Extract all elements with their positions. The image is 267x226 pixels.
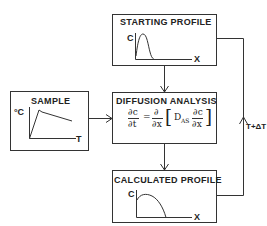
- starting-profile-x-axis-label: X: [194, 54, 200, 64]
- sample-y-axis-label: °C: [14, 107, 24, 117]
- eq-rhs-numerator: ∂c: [193, 107, 203, 117]
- starting-profile-curve: [136, 34, 154, 60]
- eq-lhs-denominator: ∂t: [128, 119, 136, 129]
- sample-axes: [30, 107, 77, 139]
- sample-title: SAMPLE: [31, 96, 70, 106]
- eq-coefficient-subscript: AS: [181, 117, 189, 124]
- sample-x-axis-label: T: [76, 134, 82, 144]
- feedback-loop-line: [217, 39, 244, 196]
- eq-bracket-close: ]: [205, 106, 212, 127]
- eq-operator-numerator: ∂: [154, 107, 159, 117]
- sample-temperature-curve: [30, 110, 73, 139]
- loop-label: T+ΔT: [246, 122, 266, 131]
- eq-operator-denominator: ∂x: [152, 119, 162, 129]
- starting-profile-title: STARTING PROFILE: [120, 17, 212, 27]
- calculated-profile-x-axis-label: X: [194, 212, 200, 222]
- eq-rhs-denominator: ∂x: [192, 119, 202, 129]
- calculated-profile-curve: [137, 194, 166, 217]
- calculated-profile-title: CALCULATED PROFILE: [114, 175, 222, 185]
- starting-profile-y-axis-label: C: [127, 33, 134, 43]
- calculated-profile-y-axis-label: C: [128, 189, 135, 199]
- starting-profile-axes: [136, 33, 193, 60]
- eq-lhs-numerator: ∂c: [128, 107, 138, 117]
- eq-bracket-open: [: [165, 106, 172, 127]
- diffusion-analysis-title: DIFFUSION ANALYSIS: [116, 96, 217, 106]
- eq-equals: =: [143, 112, 151, 122]
